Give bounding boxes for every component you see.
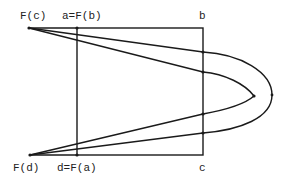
horseshoe-map-diagram: F(c) a=F(b) b F(d) d=F(a) c xyxy=(0,0,288,182)
label-a-equals-f-of-b: a=F(b) xyxy=(62,10,102,22)
intersection-points xyxy=(27,26,273,156)
inner-horseshoe-curve xyxy=(29,28,254,155)
label-f-of-c: F(c) xyxy=(20,10,46,22)
label-c: c xyxy=(199,162,206,174)
outer-horseshoe-curve xyxy=(29,28,272,155)
label-d-equals-f-of-a: d=F(a) xyxy=(57,162,97,174)
label-f-of-d: F(d) xyxy=(13,162,39,174)
label-b: b xyxy=(199,10,206,22)
